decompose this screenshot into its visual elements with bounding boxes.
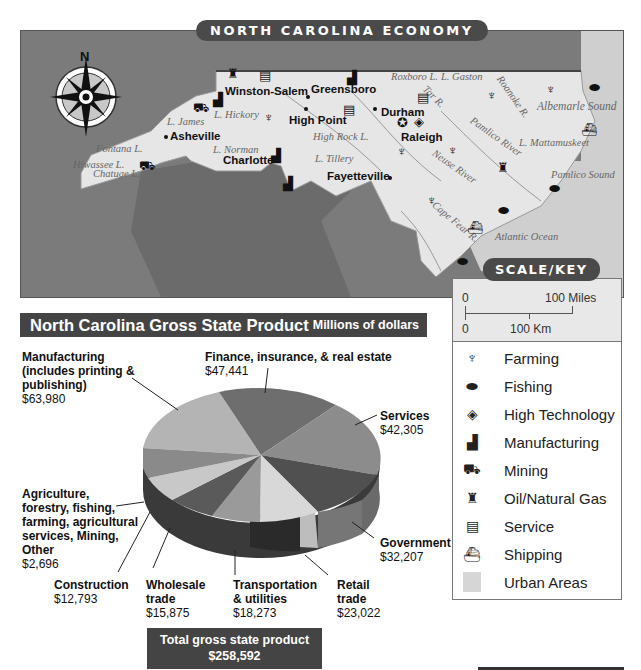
- label-manufacturing: Manufacturing (includes printing & publi…: [22, 350, 135, 406]
- label-retail: Retail trade $23,022: [337, 578, 380, 620]
- total-gsp-box: Total gross state product $258,592: [147, 628, 322, 669]
- label-wholesale: Wholesale trade $15,875: [146, 578, 205, 620]
- scale-key-title: SCALE/KEY: [483, 258, 600, 281]
- label-transportation: Transportation & utilities $18,273: [233, 578, 317, 620]
- label-government: Government $32,207: [380, 536, 451, 564]
- total-gsp-label: Total gross state product: [147, 632, 322, 648]
- label-agriculture: Agriculture, forestry, fishing, farming,…: [22, 487, 138, 571]
- label-services: Services $42,305: [380, 409, 429, 437]
- map-title: NORTH CAROLINA ECONOMY: [196, 20, 488, 41]
- label-construction: Construction $12,793: [54, 578, 129, 606]
- total-gsp-value: $258,592: [147, 648, 322, 664]
- label-finance: Finance, insurance, & real estate $47,44…: [205, 350, 392, 378]
